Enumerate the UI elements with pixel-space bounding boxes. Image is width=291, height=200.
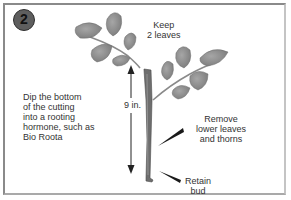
leaf-icon [124,33,136,50]
retain-bud-pointer-icon [159,171,181,183]
right-branch [153,47,228,100]
remove-leaves-pointer-icon [158,128,184,146]
retain-bud-label: Retain bud [185,176,211,196]
leaf-icon [172,85,190,99]
leaf-icon [200,50,228,66]
keep-leaves-label: Keep 2 leaves [147,20,181,40]
leaf-icon [162,61,174,80]
height-measure-label: 9 in. [124,99,141,111]
arrow-up-icon [128,65,135,74]
rose-cutting-diagram: 2 [0,0,291,200]
leaf-icon [91,44,112,62]
leaf-icon [190,71,208,90]
stem [144,69,153,182]
leaf-icon [75,23,102,39]
leaf-icon [113,55,131,66]
leaf-icon [176,47,191,68]
upper-branch [75,13,140,68]
arrow-down-icon [128,165,135,174]
height-measure-arrow [128,65,135,174]
leaf-icon [106,13,121,36]
remove-leaves-label: Remove lower leaves and thorns [196,114,246,144]
dip-instruction-label: Dip the bottom of the cutting into a roo… [23,92,95,142]
